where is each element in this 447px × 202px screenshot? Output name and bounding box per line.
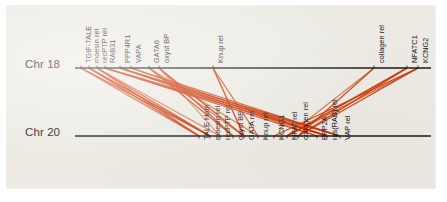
gene-label: VAPA: [134, 44, 143, 63]
gene-label: NFATC1: [410, 35, 419, 63]
chr18-axis-label: Chr 18: [25, 58, 60, 70]
gene-label: oxyst BP: [162, 34, 171, 63]
gene-label: KCNG2: [421, 38, 430, 63]
synteny-plot: [7, 6, 435, 188]
gene-label: PPP2A: [320, 116, 329, 140]
gene-label: PPP4R1: [123, 35, 132, 63]
gene-label: Knup rel: [261, 112, 270, 140]
synteny-figure: Chr 18 Chr 20 TGIF-TALEmoesin relrecPTP …: [7, 6, 435, 188]
gene-label: RAB31: [108, 40, 117, 63]
gene-label: collagen rel: [301, 102, 310, 140]
gene-label: ras(RAB) rel: [330, 99, 339, 140]
gene-label: TALE Hom: [202, 104, 211, 140]
chr20-axis-label: Chr 20: [25, 126, 60, 138]
gene-label: recPTP rel: [223, 105, 232, 140]
gene-label: moesin rel: [213, 106, 222, 140]
synteny-link: [89, 68, 199, 136]
gene-label: KCNG1: [277, 115, 286, 140]
gene-label: oxyst BP: [236, 111, 245, 140]
gene-label: GATA rel: [247, 111, 256, 140]
synteny-link: [298, 68, 418, 136]
gene-label: collagen rel: [377, 25, 386, 63]
gene-label: GATA6: [152, 40, 161, 63]
gene-label: VAP rel: [343, 116, 352, 140]
gene-label: NFAT rel: [290, 111, 299, 140]
gene-label: Knup rel: [216, 35, 225, 63]
